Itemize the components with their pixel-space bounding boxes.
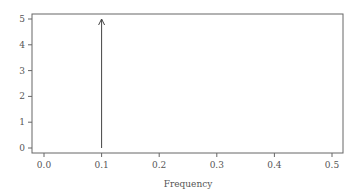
y-tick-label: 1 — [19, 117, 25, 127]
x-tick-label: 0.2 — [152, 160, 166, 170]
chart: 012345 0.00.10.20.30.40.5 Frequency — [0, 0, 360, 194]
y-tick-label: 3 — [19, 66, 25, 76]
plot-series — [99, 19, 105, 148]
y-tick-label: 4 — [19, 40, 25, 50]
x-tick-label: 0.5 — [325, 160, 340, 170]
x-axis-label: Frequency — [164, 179, 214, 189]
x-tick-label: 0.1 — [94, 160, 108, 170]
y-tick-label: 5 — [19, 14, 25, 24]
x-tick-label: 0.0 — [37, 160, 52, 170]
x-axis: 0.00.10.20.30.40.5 — [37, 153, 340, 170]
y-tick-label: 0 — [19, 143, 25, 153]
x-tick-label: 0.4 — [267, 160, 282, 170]
x-tick-label: 0.3 — [210, 160, 225, 170]
y-tick-label: 2 — [19, 91, 25, 101]
plot-frame — [32, 14, 343, 153]
y-axis: 012345 — [19, 14, 32, 153]
